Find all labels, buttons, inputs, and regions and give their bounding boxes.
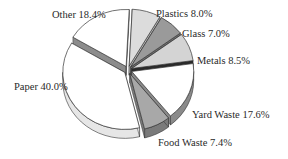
label-food-waste: Food Waste 7.4% bbox=[158, 138, 232, 149]
label-yard-waste: Yard Waste 17.6% bbox=[192, 110, 270, 121]
label-metals: Metals 8.5% bbox=[197, 56, 250, 67]
label-paper: Paper 40.0% bbox=[14, 82, 68, 93]
label-glass: Glass 7.0% bbox=[182, 29, 230, 40]
label-other: Other 18.4% bbox=[52, 10, 106, 21]
pie-chart bbox=[0, 0, 288, 159]
label-plastics: Plastics 8.0% bbox=[156, 9, 213, 20]
